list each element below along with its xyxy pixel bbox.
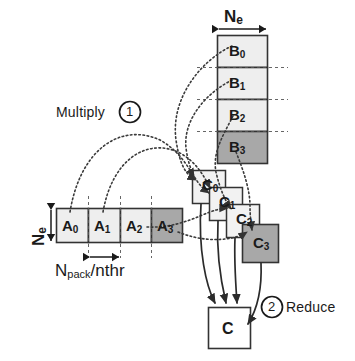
- step-1-label: Multiply: [56, 105, 105, 119]
- a-block-0-label: A0: [62, 218, 78, 235]
- b-block-2-label: B2: [229, 107, 245, 124]
- c-partial-2-label: C2: [236, 211, 252, 228]
- a-height-dimension-label: Ne: [30, 227, 48, 246]
- curve-a0-to-c: [70, 135, 194, 212]
- a-segment-dimension-label: Npack/nthr: [55, 262, 125, 280]
- a-block-3-label: A3: [157, 218, 173, 235]
- step-2-label: Reduce: [286, 300, 335, 314]
- step-2-number: 2: [268, 300, 275, 313]
- c-partial-3-label: C3: [253, 235, 269, 252]
- a-block-1-label: A1: [94, 218, 110, 235]
- c-partial-1-label: C1: [219, 194, 235, 211]
- b-block-1-label: B1: [229, 75, 245, 92]
- c-partial-0-label: C0: [202, 177, 218, 194]
- b-block-0-label: B0: [229, 43, 245, 60]
- b-width-dimension-label: Ne: [224, 8, 243, 26]
- reduce-arrow-c1: [218, 221, 226, 303]
- c-result-label: C: [222, 321, 234, 337]
- step-1-number: 1: [126, 105, 133, 118]
- reduce-arrow-c2: [235, 238, 237, 303]
- a-block-2-label: A2: [126, 218, 142, 235]
- b-block-3-label: B3: [229, 139, 245, 156]
- diagram-canvas: B0 B1 B2 B3 A0 A1 A2 A3 C0 C1 C2 C3 C Ne…: [0, 0, 355, 361]
